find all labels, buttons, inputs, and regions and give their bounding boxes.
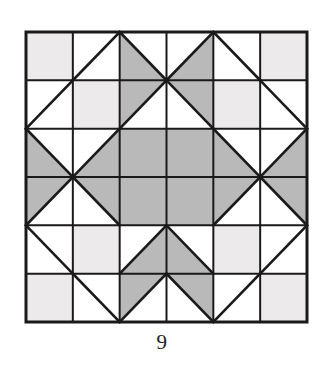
patch-r3c4 <box>167 129 214 177</box>
quilt-block-diagram <box>0 0 324 368</box>
patch-r1c6 <box>260 32 307 80</box>
figure-caption: 9 <box>0 328 324 356</box>
patch-r1c1 <box>26 32 73 80</box>
patch-r6c6 <box>260 274 307 322</box>
patch-r2c5 <box>213 80 260 128</box>
patch-r5c2 <box>73 225 120 273</box>
patch-r3c3 <box>120 129 167 177</box>
patch-r2c2 <box>73 80 120 128</box>
quilt-figure: 9 <box>0 0 324 368</box>
patch-r5c5 <box>213 225 260 273</box>
patch-r4c4 <box>167 177 214 225</box>
patch-r4c3 <box>120 177 167 225</box>
patch-r6c1 <box>26 274 73 322</box>
